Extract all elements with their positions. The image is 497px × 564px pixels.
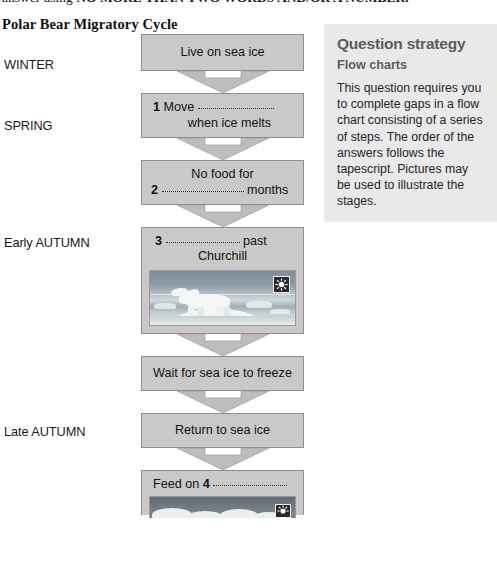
ice-floe xyxy=(154,303,176,309)
instruction-line: answer using NO MORE THAN TWO WORDS AND/… xyxy=(0,0,497,9)
flow-arrow xyxy=(141,138,304,160)
flow-box-text: Live on sea ice xyxy=(180,45,264,59)
answer-gap-4[interactable] xyxy=(213,477,287,486)
polar-bear-figure xyxy=(176,288,238,314)
polar-bear-cropped-photo xyxy=(149,496,296,518)
ice-floe xyxy=(246,301,272,308)
flow-box-text-line1: No food for xyxy=(191,167,253,181)
flow-arrow xyxy=(141,391,304,413)
sun-icon xyxy=(275,504,291,518)
flow-arrow xyxy=(141,71,304,93)
strategy-title: Question strategy xyxy=(337,35,485,52)
flow-box-move-when-ice-melts: 1 Move when ice melts xyxy=(141,93,304,138)
flow-box-feed-on: Feed on 4 xyxy=(141,470,304,515)
answer-gap-3[interactable] xyxy=(166,234,240,243)
flow-box-no-food-for-months: No food for 2 months xyxy=(141,160,304,205)
instruction-caps: NO MORE THAN TWO WORDS AND/OR A NUMBER. xyxy=(76,0,408,5)
season-label-spring: SPRING xyxy=(4,118,52,133)
answer-gap-2[interactable] xyxy=(162,183,244,192)
gap-number-4: 4 xyxy=(203,477,210,491)
page-title: Polar Bear Migratory Cycle xyxy=(2,16,178,33)
down-arrow-icon xyxy=(177,391,269,413)
gap-number-2: 2 xyxy=(151,183,158,197)
flow-box-text-prefix: Move xyxy=(164,100,195,114)
strategy-body-text: This question requires you to complete g… xyxy=(337,80,485,210)
answer-gap-1[interactable] xyxy=(198,100,274,109)
flow-box-wait-for-sea-ice-to-freeze: Wait for sea ice to freeze xyxy=(141,356,304,391)
ice-ridge xyxy=(152,508,192,518)
flow-box-past-churchill: 3 past Churchill xyxy=(141,227,304,334)
gap-number-3: 3 xyxy=(155,234,162,248)
down-arrow-icon xyxy=(177,71,269,93)
ice-ridge xyxy=(220,509,258,518)
gap-number-1: 1 xyxy=(153,100,160,114)
flow-chart: Live on sea ice 1 Move when ice melts xyxy=(141,34,304,515)
ice-foreground xyxy=(150,316,295,325)
season-label-early-autumn: Early AUTUMN xyxy=(4,235,90,250)
down-arrow-icon xyxy=(177,138,269,160)
flow-arrow xyxy=(141,448,304,470)
instruction-prefix: answer using xyxy=(2,0,76,5)
question-strategy-panel: Question strategy Flow charts This quest… xyxy=(324,24,497,222)
down-arrow-icon xyxy=(177,334,269,356)
flow-arrow xyxy=(141,205,304,227)
season-label-late-autumn: Late AUTUMN xyxy=(4,424,85,439)
flow-box-text-line2: Churchill xyxy=(198,249,247,263)
flow-box-text-suffix: past xyxy=(243,234,267,248)
down-arrow-icon xyxy=(177,448,269,470)
flow-box-text: Wait for sea ice to freeze xyxy=(153,366,292,380)
flow-box-text-prefix: Feed on xyxy=(153,477,199,491)
down-arrow-icon xyxy=(177,205,269,227)
season-label-winter: WINTER xyxy=(4,57,54,72)
polar-bear-on-ice-photo xyxy=(149,270,296,326)
ice-floe xyxy=(270,309,290,314)
ice-ridge xyxy=(188,511,222,518)
strategy-subtitle: Flow charts xyxy=(337,59,485,73)
flow-box-text-line2: when ice melts xyxy=(188,116,271,130)
instruction-text: answer using NO MORE THAN TWO WORDS AND/… xyxy=(2,0,409,6)
flow-arrow xyxy=(141,334,304,356)
flow-box-return-to-sea-ice: Return to sea ice xyxy=(141,413,304,448)
flow-box-live-on-sea-ice: Live on sea ice xyxy=(141,34,304,71)
flow-box-text: Return to sea ice xyxy=(175,423,270,437)
flow-box-text-suffix: months xyxy=(247,183,288,197)
sun-icon xyxy=(273,276,290,293)
